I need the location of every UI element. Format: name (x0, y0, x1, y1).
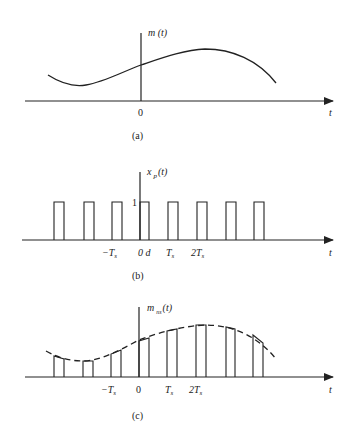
panel-c-sampled-pulses (54, 325, 263, 377)
pulse (140, 202, 149, 240)
sampled-pulse (167, 329, 177, 377)
panel-c-x-label: t (329, 384, 332, 395)
panel-c-dashed-envelope (46, 325, 276, 361)
pulse (254, 202, 264, 240)
sampling-diagram: m (t) 0 t (a) xp(t) 1 −Ts 0 d Ts 2Ts t (… (0, 0, 350, 430)
panel-b-amplitude-label: 1 (132, 197, 137, 208)
panel-a-caption: (a) (132, 130, 143, 142)
panel-c-tick-ts: Ts (165, 384, 174, 397)
panel-a-y-label: m (t) (148, 27, 168, 39)
panel-b-y-label: xp(t) (146, 166, 168, 180)
sampled-pulse (139, 338, 149, 377)
panel-b-caption: (b) (132, 270, 144, 282)
panel-a-x-label: t (329, 107, 332, 118)
panel-b-x-label: t (329, 247, 332, 258)
panel-c-caption: (c) (132, 410, 143, 422)
panel-b-pulse-train: xp(t) 1 −Ts 0 d Ts 2Ts t (b) (22, 166, 333, 282)
panel-a-origin-label: 0 (138, 107, 143, 118)
panel-b-tick-zero-d: 0 d (138, 247, 152, 258)
panel-b-tick-2ts: 2Ts (191, 247, 205, 260)
sampled-pulse (196, 325, 206, 377)
panel-a-message-curve (48, 49, 276, 86)
pulse (54, 202, 64, 240)
panel-c-tick-zero: 0 (136, 384, 141, 395)
sampled-pulse (226, 327, 235, 377)
pulse (84, 202, 94, 240)
panel-c-y-label: mns(t) (147, 302, 173, 315)
panel-b-tick-ts: Ts (166, 247, 175, 260)
sampled-pulse (111, 350, 121, 377)
panel-a-message-signal: m (t) 0 t (a) (25, 27, 333, 142)
sampled-pulse (54, 356, 64, 377)
sampled-pulse (83, 361, 93, 377)
pulse (226, 202, 236, 240)
panel-c-tick-neg-ts: −Ts (101, 384, 116, 397)
panel-b-pulses (54, 202, 264, 240)
pulse (168, 202, 178, 240)
pulse (197, 202, 207, 240)
panel-b-tick-neg-ts: −Ts (102, 247, 117, 260)
panel-c-natural-sampled-signal: mns(t) −Ts 0 Ts 2Ts t (c) (25, 302, 333, 422)
pulse (112, 202, 122, 240)
panel-c-tick-2ts: 2Ts (189, 384, 203, 397)
